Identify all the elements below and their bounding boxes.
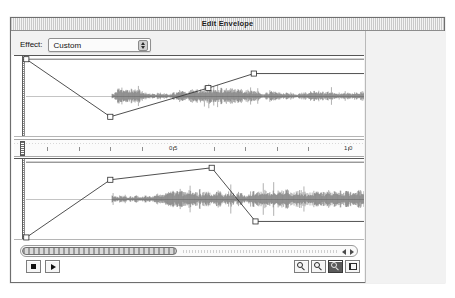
horizontal-scrollbar[interactable] [20, 245, 358, 257]
waveform-pane-bottom[interactable] [14, 158, 364, 240]
fit-to-window-icon [349, 263, 357, 270]
envelope-control-point[interactable] [209, 165, 214, 170]
ruler-hairline [14, 143, 364, 144]
envelope-polyline[interactable] [26, 59, 364, 117]
time-ruler[interactable]: 0.51.0 [14, 139, 364, 157]
envelope-curve-bottom[interactable] [14, 159, 364, 239]
stepper-arrows-icon[interactable] [138, 40, 148, 51]
magnifier-plus-icon [297, 262, 306, 271]
envelope-control-point[interactable] [251, 71, 256, 76]
envelope-control-point[interactable] [253, 219, 258, 224]
stop-icon [31, 264, 36, 269]
zoom-button-group [294, 260, 360, 273]
zoom-in-button[interactable] [294, 260, 309, 273]
play-icon [51, 264, 56, 270]
zoom-selection-button[interactable] [328, 260, 343, 273]
window-title: Edit Envelope [196, 18, 260, 30]
envelope-control-point[interactable] [108, 114, 113, 119]
window-titlebar[interactable]: Edit Envelope [11, 18, 444, 31]
zoom-fit-button[interactable] [345, 260, 360, 273]
screen: Edit Envelope Effect: Custom OK Cancel [0, 0, 455, 298]
button-column-divider [365, 31, 446, 283]
effect-select[interactable]: Custom [48, 38, 151, 52]
magnifier-selection-icon [331, 262, 340, 271]
scrollbar-thumb[interactable] [22, 247, 177, 255]
ruler-tick [308, 147, 309, 151]
effect-row: Effect: Custom [20, 38, 151, 52]
stop-button[interactable] [26, 260, 41, 273]
envelope-editor: 0.51.0 [12, 55, 364, 282]
waveform-pane-top[interactable] [14, 55, 364, 137]
effect-label: Effect: [20, 39, 43, 51]
envelope-curve-top[interactable] [14, 56, 364, 136]
magnifier-minus-icon [314, 262, 323, 271]
edit-envelope-window: Edit Envelope Effect: Custom OK Cancel [10, 17, 445, 283]
audio-waveform [112, 84, 364, 108]
ruler-tick [110, 147, 111, 151]
ruler-tick-label: 0.5 [169, 145, 177, 151]
ruler-tick [142, 147, 143, 151]
ruler-tick [245, 147, 246, 151]
envelope-control-point[interactable] [24, 57, 29, 62]
editor-toolbar [12, 260, 364, 280]
effect-select-value: Custom [49, 39, 82, 52]
scrollbar-track[interactable] [183, 250, 339, 253]
ruler-tick [47, 147, 48, 151]
ruler-tick-label: 1.0 [344, 145, 352, 151]
ruler-tick [277, 147, 278, 151]
zoom-out-button[interactable] [311, 260, 326, 273]
ruler-tick [214, 147, 215, 151]
play-button[interactable] [45, 260, 60, 273]
playhead-grip[interactable] [20, 141, 25, 156]
envelope-control-point[interactable] [206, 85, 211, 90]
envelope-control-point[interactable] [24, 235, 29, 240]
scroll-right-arrow-icon[interactable] [350, 249, 354, 255]
audio-waveform [112, 182, 364, 216]
envelope-control-point[interactable] [108, 177, 113, 182]
scroll-left-arrow-icon[interactable] [342, 249, 346, 255]
chevron-down-icon [141, 46, 145, 49]
ruler-tick [79, 147, 80, 151]
chevron-up-icon [141, 42, 145, 45]
